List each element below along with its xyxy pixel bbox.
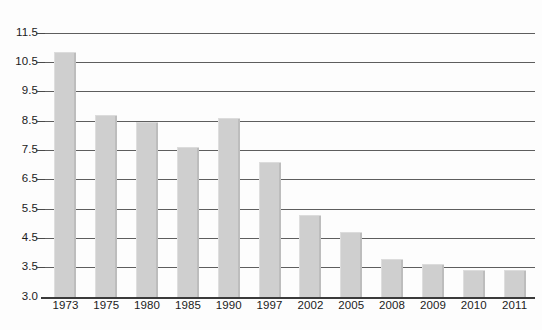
y-axis-tick-label: 10.5 — [4, 56, 38, 68]
bar — [259, 162, 281, 297]
x-axis-tick-label: 2009 — [413, 300, 454, 312]
bar — [299, 215, 321, 297]
bar — [218, 118, 240, 297]
bar — [340, 232, 362, 297]
x-axis-tick-label: 1980 — [127, 300, 168, 312]
y-axis-tick — [36, 91, 45, 92]
y-axis-tick-label: 9.5 — [4, 85, 38, 97]
y-axis-tick — [36, 238, 45, 239]
bar — [136, 122, 158, 297]
gridline — [45, 267, 535, 268]
x-axis-tick-label: 2010 — [453, 300, 494, 312]
x-axis-tick-label: 2008 — [372, 300, 413, 312]
y-axis-tick — [36, 62, 45, 63]
y-axis-tick-label: 6.5 — [4, 173, 38, 185]
y-axis-tick — [36, 121, 45, 122]
bar — [381, 259, 403, 297]
plot-area — [45, 20, 535, 310]
gridline — [45, 150, 535, 151]
y-axis-tick-label: 3.5 — [4, 261, 38, 273]
x-axis-tick-label: 1975 — [86, 300, 127, 312]
y-axis-tick-label: 4.5 — [4, 232, 38, 244]
gridline — [45, 62, 535, 63]
y-axis-tick — [36, 267, 45, 268]
x-axis-tick-label: 1973 — [45, 300, 86, 312]
bar-chart: 11.510.59.58.57.56.55.54.53.53.0 1973197… — [0, 0, 542, 330]
bar — [463, 270, 485, 296]
x-axis-tick-label: 2011 — [494, 300, 535, 312]
bar — [95, 115, 117, 297]
y-axis-tick — [36, 209, 45, 210]
gridline — [45, 209, 535, 210]
x-axis-tick-label: 1990 — [208, 300, 249, 312]
bar — [177, 147, 199, 297]
y-axis-tick-label: 5.5 — [4, 203, 38, 215]
gridline — [45, 33, 535, 34]
gridline — [45, 238, 535, 239]
x-axis-label-group: 1973197519801985199019972002200520082009… — [45, 300, 535, 322]
y-axis-label-group: 11.510.59.58.57.56.55.54.53.53.0 — [0, 20, 38, 310]
y-axis-tick — [36, 179, 45, 180]
gridline — [45, 179, 535, 180]
y-axis-tick-label: 11.5 — [4, 27, 38, 39]
gridline — [45, 121, 535, 122]
bar — [54, 52, 76, 297]
y-axis-tick-label: 3.0 — [4, 291, 38, 303]
y-axis-tick-label: 8.5 — [4, 115, 38, 127]
y-axis-tick-label: 7.5 — [4, 144, 38, 156]
bar — [504, 270, 526, 296]
x-axis-tick-label: 2005 — [331, 300, 372, 312]
bar — [422, 264, 444, 296]
y-axis-tick — [36, 150, 45, 151]
x-axis-tick-label: 1997 — [249, 300, 290, 312]
x-axis-tick-label: 2002 — [290, 300, 331, 312]
gridline — [45, 91, 535, 92]
x-axis-tick-label: 1985 — [168, 300, 209, 312]
y-axis-tick — [36, 33, 45, 34]
